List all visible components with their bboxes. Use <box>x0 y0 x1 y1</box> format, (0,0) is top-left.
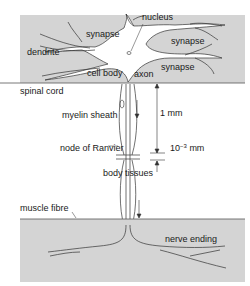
label-body-tissues: body tissues <box>103 169 153 178</box>
schwann-cell-icon <box>120 100 124 108</box>
label-internode-length: 1 mm <box>160 109 183 118</box>
label-synapse: synapse <box>86 30 120 39</box>
label-dendrite: dendrite <box>27 48 60 57</box>
label-nucleus: nucleus <box>142 13 173 22</box>
label-cell-body: cell body <box>87 69 123 78</box>
label-node-of-ranvier: node of Ranvier <box>60 144 124 153</box>
label-spinal-cord: spinal cord <box>20 87 64 96</box>
label-nerve-ending: nerve ending <box>165 235 217 244</box>
label-axon: axon <box>134 70 154 79</box>
muscle-fibre-region <box>20 219 245 282</box>
label-synapse: synapse <box>171 37 205 46</box>
label-muscle-fibre: muscle fibre <box>20 204 69 213</box>
label-node-gap: 10−3 mm <box>170 144 204 153</box>
signal-arrows <box>135 84 165 218</box>
nucleus-shape <box>127 52 131 55</box>
label-synapse: synapse <box>161 63 195 72</box>
label-myelin-sheath: myelin sheath <box>62 111 118 120</box>
